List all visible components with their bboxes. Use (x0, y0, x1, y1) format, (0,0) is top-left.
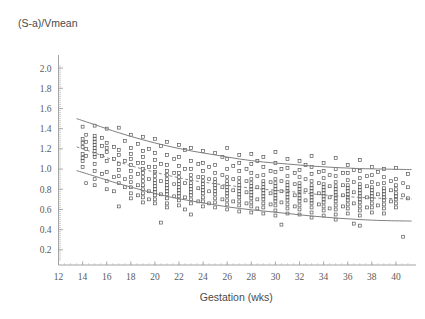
data-point (382, 190, 385, 193)
data-point (274, 209, 277, 212)
data-point (129, 176, 132, 179)
data-point (310, 211, 313, 214)
data-point (85, 133, 88, 136)
data-point (366, 175, 369, 178)
data-point (123, 178, 126, 181)
data-point (358, 214, 361, 217)
data-point (250, 191, 253, 194)
data-point (141, 156, 144, 159)
data-point (226, 168, 229, 171)
data-point (310, 187, 313, 190)
data-point (394, 178, 397, 181)
data-point (334, 188, 337, 191)
data-point (286, 207, 289, 210)
data-point (141, 172, 144, 175)
data-point (112, 190, 115, 193)
data-point (269, 170, 272, 173)
data-point (322, 209, 325, 212)
data-point (153, 198, 156, 201)
data-point (100, 173, 103, 176)
data-point (153, 194, 156, 197)
data-point (352, 169, 355, 172)
data-point (141, 192, 144, 195)
data-point (238, 153, 241, 156)
data-point (190, 202, 193, 205)
data-point (232, 189, 235, 192)
data-point (129, 158, 132, 161)
data-point (214, 164, 217, 167)
data-point (153, 175, 156, 178)
data-point (370, 192, 373, 195)
data-point (286, 167, 289, 170)
data-point (208, 178, 211, 181)
data-point (358, 183, 361, 186)
data-point (202, 162, 205, 165)
data-point (238, 200, 241, 203)
data-point (178, 195, 181, 198)
data-point (341, 172, 344, 175)
data-point (358, 209, 361, 212)
data-point (166, 170, 169, 173)
data-point (250, 152, 253, 155)
data-point (250, 163, 253, 166)
data-point (328, 185, 331, 188)
data-point (298, 176, 301, 179)
data-point (197, 176, 200, 179)
data-point (286, 196, 289, 199)
data-point (232, 200, 235, 203)
data-point (226, 208, 229, 211)
data-point (105, 160, 108, 163)
data-point (274, 150, 277, 153)
data-point (159, 180, 162, 183)
data-point (382, 182, 385, 185)
data-point (346, 172, 349, 175)
y-axis-tick-label: 0.2 (40, 245, 52, 255)
data-point (105, 146, 108, 149)
data-point (93, 170, 96, 173)
data-point (262, 180, 265, 183)
data-point (208, 190, 211, 193)
data-point (153, 188, 156, 191)
data-point (346, 212, 349, 215)
data-point (328, 174, 331, 177)
data-point (262, 186, 265, 189)
data-point (178, 143, 181, 146)
x-axis-tick-label: 12 (54, 272, 64, 282)
data-point (370, 211, 373, 214)
data-point (141, 180, 144, 183)
data-point (334, 175, 337, 178)
data-point (322, 192, 325, 195)
data-point (286, 158, 289, 161)
data-point (334, 181, 337, 184)
data-point (334, 208, 337, 211)
data-point (202, 196, 205, 199)
data-point (322, 201, 325, 204)
data-point (358, 186, 361, 189)
data-point (274, 171, 277, 174)
data-point (85, 140, 88, 143)
data-point (202, 205, 205, 208)
data-point (370, 189, 373, 192)
data-point (184, 182, 187, 185)
x-axis-tick-label: 26 (222, 272, 232, 282)
data-point (153, 166, 156, 169)
data-point (159, 163, 162, 166)
data-point (304, 189, 307, 192)
data-point (238, 162, 241, 165)
data-point (226, 199, 229, 202)
data-point (81, 157, 84, 160)
data-point (286, 187, 289, 190)
data-point (293, 183, 296, 186)
data-point (317, 182, 320, 185)
data-point (366, 206, 369, 209)
data-point (100, 136, 103, 139)
data-point (129, 192, 132, 195)
data-point (226, 176, 229, 179)
data-point (269, 181, 272, 184)
data-point (178, 172, 181, 175)
data-point (117, 163, 120, 166)
data-point (274, 185, 277, 188)
y-axis-tick-label: 0.8 (40, 185, 52, 195)
data-point (93, 156, 96, 159)
data-point (105, 141, 108, 144)
